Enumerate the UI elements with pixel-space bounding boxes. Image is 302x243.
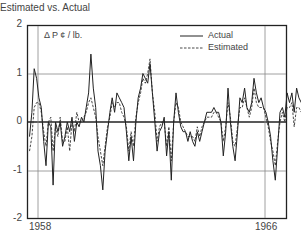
unit-label: Δ P ¢ / lb. bbox=[44, 30, 82, 40]
legend-actual-label: Actual bbox=[208, 30, 233, 40]
legend-estimated-label: Estimated bbox=[208, 42, 248, 52]
series-estimated bbox=[30, 59, 302, 166]
